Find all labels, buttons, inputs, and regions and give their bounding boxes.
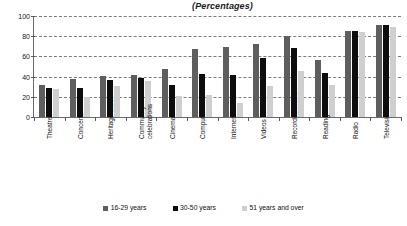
bar [376,25,382,117]
bar [162,69,168,117]
x-axis-tick-mark [309,117,310,121]
x-axis-label: Heritage sites [107,77,115,139]
y-axis-tick-label: 100 [18,13,30,20]
plot-area: 020406080100TheatreConcertsHeritage site… [33,16,401,118]
x-axis-label: Computer [199,77,207,139]
x-axis-tick-mark [65,117,66,121]
bar [253,44,259,117]
chart-title: (Percentages) [0,1,407,11]
bar [359,32,365,117]
x-axis-tick-mark [279,117,280,121]
bar [176,96,182,117]
y-axis-tick-label: 80 [22,33,30,40]
plot-inner: 020406080100TheatreConcertsHeritage site… [34,16,401,117]
bar [70,79,76,117]
y-axis-tick-label: 40 [22,73,30,80]
y-axis-tick-label: 60 [22,53,30,60]
x-axis-tick-mark [340,117,341,121]
bar [390,27,396,117]
bar [114,86,120,117]
x-axis-tick-mark [248,117,249,121]
x-axis-label: Internet [230,77,238,139]
x-axis-label: Reading [322,77,330,139]
legend-item: 16-29 years [103,205,146,212]
x-axis-label: Television [383,77,391,139]
x-axis-label: Radio [352,77,360,139]
x-axis-label: Cinema [169,77,177,139]
legend-item: 30-50 years [173,205,216,212]
x-axis-label: Videos [260,77,268,139]
y-axis-tick-label: 20 [22,93,30,100]
legend-swatch [103,206,108,211]
x-axis-tick-mark [370,117,371,121]
bar [100,76,106,117]
x-axis-tick-mark [95,117,96,121]
x-axis-label: Recorded music [291,77,299,139]
chart-legend: 16-29 years30-50 years51 years and over [0,205,407,212]
bar [39,85,45,117]
chart-page: (Percentages) 020406080100TheatreConcert… [0,0,407,226]
bar [237,103,243,117]
legend-label: 30-50 years [180,205,216,212]
x-axis-label: Concerts [77,77,85,139]
bar [131,75,137,117]
legend-item: 51 years and over [242,205,304,212]
x-axis-tick-mark [34,117,35,121]
bar [298,71,304,117]
x-axis-tick-mark [126,117,127,121]
legend-swatch [242,206,247,211]
x-axis-tick-mark [401,117,402,121]
bar [267,86,273,117]
bar [206,95,212,117]
x-axis-label: Community celebrations [138,77,153,139]
y-axis-tick-label: 0 [26,114,30,121]
bar [223,47,229,117]
bar [84,97,90,117]
legend-label: 51 years and over [249,205,303,212]
bar [284,36,290,117]
legend-swatch [173,206,178,211]
bar [345,31,351,117]
x-axis-label: Theatre [46,77,54,139]
x-axis-tick-mark [187,117,188,121]
bar [53,89,59,117]
legend-label: 16-29 years [111,205,147,212]
x-axis-tick-mark [218,117,219,121]
x-axis-tick-mark [156,117,157,121]
bar [315,60,321,117]
bar [192,49,198,117]
